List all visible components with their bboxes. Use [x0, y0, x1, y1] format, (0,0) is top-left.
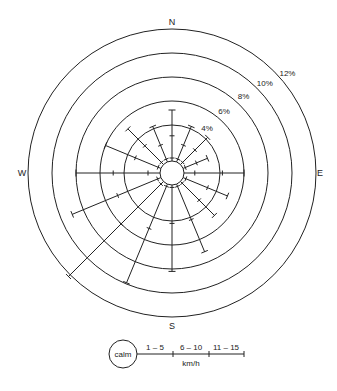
ring-label-8: 8% — [238, 92, 250, 101]
calm-circle — [160, 161, 184, 185]
ring-label-10: 10% — [257, 79, 273, 88]
spoke-ene — [183, 155, 209, 170]
ring-label-6: 6% — [218, 107, 230, 116]
spoke-ne — [180, 135, 210, 165]
west-label: W — [18, 168, 27, 178]
ring-label-12: 12% — [279, 69, 295, 78]
spoke-n — [169, 110, 176, 161]
wind-rose-chart: 4%6%8%10%12% N S W E calm 1 – 5 6 – 10 1… — [0, 0, 337, 391]
south-label: S — [169, 321, 175, 331]
legend-class-1: 1 – 5 — [146, 343, 164, 352]
legend: calm 1 – 5 6 – 10 11 – 15 km/h — [109, 340, 244, 368]
spoke-nw — [125, 126, 163, 164]
wind-rose-figure: 4%6%8%10%12% N S W E calm 1 – 5 6 – 10 1… — [0, 0, 337, 391]
spoke-nne — [175, 125, 194, 162]
spoke-ese — [183, 176, 229, 199]
spoke-sw — [66, 181, 164, 279]
legend-unit: km/h — [182, 359, 199, 368]
ring-label-4: 4% — [201, 124, 213, 133]
spoke-s — [169, 185, 176, 271]
legend-calm-label: calm — [115, 350, 132, 359]
spoke-nnw — [149, 125, 168, 162]
spoke-e — [184, 170, 244, 177]
spoke-w — [76, 170, 160, 177]
legend-class-2: 6 – 10 — [180, 343, 203, 352]
legend-class-3: 11 – 15 — [213, 343, 240, 352]
north-label: N — [169, 17, 176, 27]
east-label: E — [317, 168, 323, 178]
